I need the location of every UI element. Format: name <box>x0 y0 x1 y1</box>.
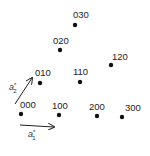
lattice-point-300 <box>120 115 124 119</box>
point-label-020: 020 <box>53 35 69 46</box>
lattice-point-110 <box>78 80 82 84</box>
a1-star-label: a*1 <box>28 129 36 141</box>
a1-star-arrow-icon <box>20 125 54 127</box>
point-label-010: 010 <box>35 67 51 78</box>
point-label-100: 100 <box>52 100 68 111</box>
lattice-point-000 <box>19 112 23 116</box>
point-label-000: 000 <box>20 99 36 110</box>
lattice-point-030 <box>73 23 77 27</box>
lattice-point-200 <box>95 114 99 118</box>
lattice-point-010 <box>38 81 42 85</box>
point-label-030: 030 <box>73 9 89 20</box>
reciprocal-lattice-diagram: 000100200300010110120020030 a*1a*2 <box>0 0 150 156</box>
lattice-point-100 <box>57 113 61 117</box>
point-label-300: 300 <box>125 102 141 113</box>
lattice-point-120 <box>109 63 113 67</box>
point-label-200: 200 <box>89 101 105 112</box>
a2-star-label: a*2 <box>9 82 17 94</box>
point-label-110: 110 <box>73 66 88 77</box>
lattice-point-020 <box>58 48 62 52</box>
lattice-points: 000100200300010110120020030 <box>19 9 141 119</box>
point-label-120: 120 <box>112 51 128 62</box>
